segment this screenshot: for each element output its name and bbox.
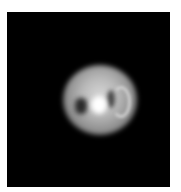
object-dark-crescent — [107, 90, 115, 108]
image-frame — [7, 12, 170, 187]
object-bright-core — [91, 96, 107, 114]
object-dark-patch — [75, 98, 87, 114]
